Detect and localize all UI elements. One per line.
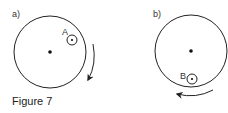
point-a-dot	[71, 39, 73, 41]
figure-caption: Figure 7	[12, 95, 52, 107]
clockwise-arrow-icon	[88, 44, 94, 80]
panel-a: a) A	[12, 9, 94, 88]
panel-b: b) B	[153, 9, 227, 96]
panel-a-label: a)	[12, 9, 20, 19]
counterclockwise-arrow-icon	[177, 90, 213, 96]
disk-a-center	[48, 50, 52, 54]
panel-b-label: b)	[153, 9, 161, 19]
point-b-dot	[191, 78, 193, 80]
point-a-label: A	[62, 27, 68, 37]
disk-b-center	[189, 49, 193, 53]
figure-7: a) A b) B Figure 7	[0, 0, 228, 113]
point-b-label: B	[180, 71, 186, 81]
